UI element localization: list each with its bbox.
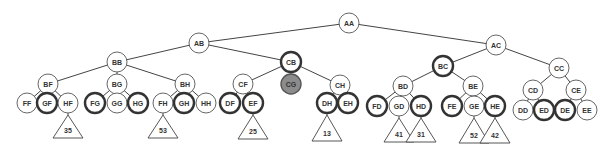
node-ef: EF <box>243 93 263 113</box>
node-label: BC <box>438 63 448 70</box>
subtree-label: 13 <box>323 130 331 137</box>
node-he: HE <box>485 96 505 116</box>
node-fe: FE <box>442 96 462 116</box>
node-label: DE <box>560 107 570 114</box>
node-cf: CF <box>233 74 253 94</box>
node-label: EE <box>582 107 592 114</box>
node-label: GH <box>179 100 190 107</box>
node-label: FG <box>90 100 100 107</box>
node-label: AC <box>491 42 501 49</box>
node-be: BE <box>463 76 483 96</box>
triangle-shape <box>480 118 510 143</box>
node-label: GG <box>112 100 123 107</box>
node-gh: GH <box>174 93 194 113</box>
subtree-label: 42 <box>491 132 499 139</box>
node-label: BD <box>398 83 408 90</box>
node-bb: BB <box>107 52 127 72</box>
node-gd: GD <box>389 96 409 116</box>
node-label: CB <box>286 59 296 66</box>
node-label: FD <box>372 103 381 110</box>
subtree-triangle-hf: 35 <box>53 113 83 138</box>
node-label: ED <box>539 107 549 114</box>
node-label: BB <box>112 59 122 66</box>
node-cb: CB <box>281 52 301 72</box>
node-label: DD <box>518 107 528 114</box>
node-de: DE <box>555 100 575 120</box>
subtree-label: 35 <box>64 127 72 134</box>
node-hd: HD <box>411 96 431 116</box>
edge-bb-bh <box>117 62 185 84</box>
node-label: GF <box>42 100 52 107</box>
node-label: HG <box>133 100 144 107</box>
node-label: GD <box>394 103 405 110</box>
edge-ab-bb <box>117 43 199 62</box>
node-label: GE <box>469 103 479 110</box>
node-label: FF <box>23 100 32 107</box>
node-ee: EE <box>577 100 597 120</box>
node-gf: GF <box>37 93 57 113</box>
node-label: HE <box>490 103 500 110</box>
subtree-label: 41 <box>395 131 403 138</box>
node-cc: CC <box>549 58 569 78</box>
node-hg: HG <box>128 93 148 113</box>
node-label: CF <box>238 81 248 88</box>
node-cd: CD <box>523 80 543 100</box>
node-fg: FG <box>85 93 105 113</box>
subtree-label: 53 <box>159 127 167 134</box>
node-bh: BH <box>175 74 195 94</box>
node-hh: HH <box>196 93 216 113</box>
node-df: DF <box>220 93 240 113</box>
node-label: BG <box>112 81 123 88</box>
node-label: DF <box>225 100 235 107</box>
node-eh: EH <box>338 93 358 113</box>
subtree-triangle-dh: 13 <box>312 113 342 141</box>
node-ac: AC <box>486 35 506 55</box>
subtree-triangle-fh: 53 <box>148 113 178 138</box>
node-dd: DD <box>513 100 533 120</box>
node-label: AA <box>344 20 354 27</box>
subtree-label: 52 <box>470 132 478 139</box>
subtrees-layer: 3553251341315242 <box>53 113 510 143</box>
node-label: BH <box>180 81 190 88</box>
node-bd: BD <box>393 76 413 96</box>
node-ce: CE <box>566 80 586 100</box>
node-ab: AB <box>189 33 209 53</box>
node-fh: FH <box>153 93 173 113</box>
node-label: AB <box>194 40 204 47</box>
node-label: CG <box>286 81 297 88</box>
node-ed: ED <box>534 100 554 120</box>
node-label: DH <box>322 100 332 107</box>
subtree-triangle-ef: 25 <box>238 113 268 139</box>
subtree-label: 31 <box>417 131 425 138</box>
node-label: FE <box>448 103 457 110</box>
subtree-label: 25 <box>249 128 257 135</box>
node-aa: AA <box>339 13 359 33</box>
node-label: EF <box>249 100 259 107</box>
edge-ab-cb <box>199 43 291 62</box>
node-bf: BF <box>38 74 58 94</box>
node-cg: CG <box>281 74 301 94</box>
node-label: FH <box>158 100 167 107</box>
node-bg: BG <box>107 74 127 94</box>
node-label: CH <box>335 82 345 89</box>
node-label: CE <box>571 87 581 94</box>
node-ff: FF <box>17 93 37 113</box>
node-label: HH <box>201 100 211 107</box>
edge-aa-ac <box>349 23 496 45</box>
triangle-shape <box>312 115 342 141</box>
node-label: BE <box>468 83 478 90</box>
tree-diagram: 3553251341315242 AAABACBBCBBCCCBFBGBHCFC… <box>0 0 615 154</box>
node-label: CC <box>554 65 564 72</box>
node-label: HF <box>63 100 73 107</box>
node-label: CD <box>528 87 538 94</box>
node-ge: GE <box>464 96 484 116</box>
node-label: EH <box>343 100 353 107</box>
node-label: BF <box>43 81 53 88</box>
node-dh: DH <box>317 93 337 113</box>
edge-aa-ab <box>199 23 349 43</box>
node-hf: HF <box>58 93 78 113</box>
node-gg: GG <box>107 93 127 113</box>
edge-bb-bf <box>48 62 117 84</box>
subtree-triangle-hd: 31 <box>406 116 436 142</box>
node-label: HD <box>416 103 426 110</box>
